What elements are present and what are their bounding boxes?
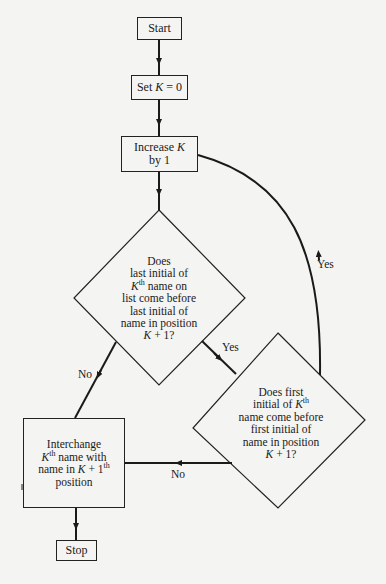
decision-first-initial-text: Does first initial of Kth name come befo… xyxy=(221,386,341,460)
start-terminal: Start xyxy=(137,17,182,40)
decision-last-initial-text: Does last initial of Kth name on list co… xyxy=(94,255,224,342)
interchange-process: Interchange Kth name with name in K + 1t… xyxy=(23,418,125,508)
d2-no-label: No xyxy=(171,468,185,480)
init-process: Set K = 0 xyxy=(131,75,188,100)
init-label: Set K = 0 xyxy=(137,81,182,94)
d1-no-label: No xyxy=(78,368,92,380)
increment-process: Increase K by 1 xyxy=(121,136,198,172)
increment-line2: by 1 xyxy=(149,154,170,167)
d1-yes-label: Yes xyxy=(222,341,239,353)
stop-terminal: Stop xyxy=(56,540,97,561)
d2-yes-label: Yes xyxy=(317,258,334,270)
stop-label: Stop xyxy=(65,544,87,557)
start-label: Start xyxy=(148,22,171,35)
edge-d1-no xyxy=(75,342,116,418)
